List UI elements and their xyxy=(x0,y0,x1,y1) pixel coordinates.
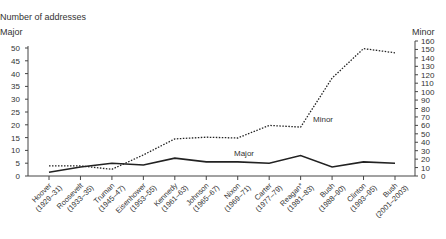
line-chart: 0510152025303540455001020304050607080901… xyxy=(0,0,446,239)
minor-annotation: Minor xyxy=(313,115,333,124)
series-minor-line xyxy=(49,49,395,170)
y-left-tick-label: 30 xyxy=(11,95,20,104)
x-tick-label: Bush(1988–90) xyxy=(310,176,347,213)
y-left-tick-label: 20 xyxy=(11,121,20,130)
x-tick-label: Clinton(1993–95) xyxy=(342,176,379,213)
y-left-tick-label: 45 xyxy=(11,57,20,66)
y-left-tick-label: 50 xyxy=(11,44,20,53)
y-right-tick-label: 20 xyxy=(421,155,430,164)
y-left-tick-label: 15 xyxy=(11,134,20,143)
x-tick-label: Roosevelt(1933–35) xyxy=(55,176,96,217)
y-right-tick-label: 150 xyxy=(421,45,435,54)
x-tick-label: Kennedy(1961–63) xyxy=(152,176,190,214)
y-right-tick-label: 10 xyxy=(421,164,430,173)
x-tick-label: Johnson(1965–67) xyxy=(184,176,221,213)
y-right-tick-label: 160 xyxy=(421,37,435,46)
y-right-tick-label: 90 xyxy=(421,96,430,105)
y-left-tick-label: 25 xyxy=(11,108,20,117)
y-left-tick-label: 0 xyxy=(16,172,21,181)
y-right-tick-label: 120 xyxy=(421,71,435,80)
y-right-tick-label: 50 xyxy=(421,130,430,139)
y-left-tick-label: 5 xyxy=(16,159,21,168)
x-tick-label: Reagan*(1981–83) xyxy=(278,176,316,214)
major-annotation: Major xyxy=(234,149,254,158)
y-right-tick-label: 30 xyxy=(421,147,430,156)
y-right-tick-label: 0 xyxy=(421,172,426,181)
y-left-tick-label: 40 xyxy=(11,70,20,79)
y-right-tick-label: 110 xyxy=(421,79,434,88)
y-left-tick-label: 10 xyxy=(11,146,20,155)
y-right-tick-label: 100 xyxy=(421,88,435,97)
y-left-tick-label: 35 xyxy=(11,82,20,91)
x-tick-label: Bush(2001–2003) xyxy=(367,176,410,219)
y-right-tick-label: 80 xyxy=(421,105,430,114)
y-right-tick-label: 130 xyxy=(421,62,435,71)
x-tick-label: Nixon(1969–71) xyxy=(216,176,253,213)
series-major-line xyxy=(49,156,395,173)
y-right-tick-label: 60 xyxy=(421,121,430,130)
x-tick-label: Carter(1977–79) xyxy=(247,176,284,213)
y-right-tick-label: 140 xyxy=(421,54,435,63)
y-right-tick-label: 40 xyxy=(421,138,430,147)
y-right-tick-label: 70 xyxy=(421,113,430,122)
